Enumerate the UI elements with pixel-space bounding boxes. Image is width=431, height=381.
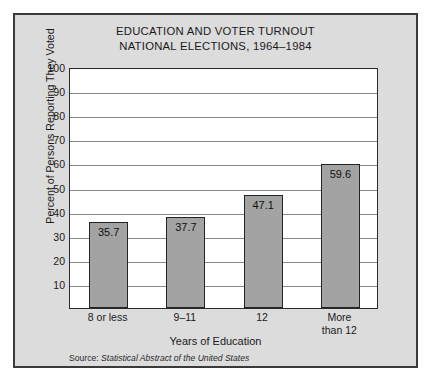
y-axis-tick-label: 20 <box>29 256 65 266</box>
chart-title-line-1: EDUCATION AND VOTER TURNOUT <box>15 24 416 39</box>
plot-area: 35.737.747.159.6 <box>69 68 378 309</box>
bar-value-label: 37.7 <box>167 221 204 233</box>
bar-value-label: 47.1 <box>245 199 282 211</box>
bars-layer: 35.737.747.159.6 <box>70 69 377 308</box>
source-note: Source: Statistical Abstract of the Unit… <box>69 353 249 363</box>
y-axis-tick-labels: 100908070605040302010 <box>29 68 65 309</box>
bar-slot: 35.7 <box>89 67 128 308</box>
chart-title-line-2: NATIONAL ELECTIONS, 1964–1984 <box>15 39 416 54</box>
x-axis-tick-label: 12 <box>224 311 301 324</box>
bar-value-label: 59.6 <box>322 168 359 180</box>
y-axis-tick-label: 70 <box>29 135 65 145</box>
x-axis-tick-label-line: 12 <box>224 311 301 324</box>
x-axis-tick-label: Morethan 12 <box>301 311 378 336</box>
x-axis-tick-label-line: More <box>301 311 378 324</box>
x-axis-title: Years of Education <box>15 335 416 347</box>
source-prefix: Source: <box>69 353 101 363</box>
bar-slot: 37.7 <box>166 67 205 308</box>
y-axis-tick-label: 10 <box>29 280 65 290</box>
y-axis-tick-label: 40 <box>29 208 65 218</box>
x-axis-tick-label: 8 or less <box>69 311 146 324</box>
x-axis-tick-label: 9–11 <box>146 311 223 324</box>
source-work-title: Statistical Abstract of the United State… <box>101 353 249 363</box>
y-axis-tick-label: 90 <box>29 87 65 97</box>
y-axis-tick-label: 30 <box>29 232 65 242</box>
y-axis-tick-label: 50 <box>29 184 65 194</box>
x-axis-tick-label-line: 8 or less <box>69 311 146 324</box>
y-axis-tick-label: 100 <box>29 63 65 73</box>
chart-figure-frame: EDUCATION AND VOTER TURNOUT NATIONAL ELE… <box>13 13 418 368</box>
bar-slot: 59.6 <box>321 67 360 308</box>
bar[interactable]: 59.6 <box>321 164 360 308</box>
bar[interactable]: 37.7 <box>166 217 205 308</box>
bar[interactable]: 35.7 <box>89 222 128 308</box>
x-axis-tick-label-line: 9–11 <box>146 311 223 324</box>
bar-value-label: 35.7 <box>90 226 127 238</box>
chart-title: EDUCATION AND VOTER TURNOUT NATIONAL ELE… <box>15 24 416 54</box>
y-axis-tick-label: 80 <box>29 111 65 121</box>
bar[interactable]: 47.1 <box>244 195 283 309</box>
y-axis-tick-label: 60 <box>29 159 65 169</box>
bar-slot: 47.1 <box>244 67 283 308</box>
